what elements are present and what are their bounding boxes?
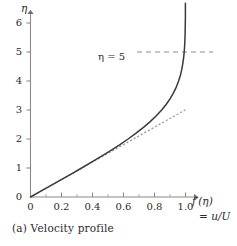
y-tick-label-2: 2 [8,134,22,144]
x-axis-ticks [62,193,186,198]
y-axis-label: η [21,3,27,14]
x-tick-label-5: 1.0 [173,202,199,212]
y-tick-label-1: 1 [8,163,22,173]
eta5-annotation-label: η = 5 [98,52,125,62]
y-tick-label-5: 5 [8,47,22,57]
x-tick-label-2: 0.4 [80,202,106,212]
x-tick-label-4: 0.8 [142,202,168,212]
x-tick-label-0: 0 [18,202,44,212]
y-tick-label-6: 6 [8,18,22,28]
velocity-profile-curve [31,3,186,197]
y-tick-label-4: 4 [8,76,22,86]
x-axis-label-line2: = u/U [199,211,230,222]
velocity-profile-figure: η f′(η) = u/U η = 5 0 1 2 3 4 5 6 0 0.2 … [0,0,237,246]
x-tick-label-1: 0.2 [49,202,75,212]
figure-caption: (a) Velocity profile [12,222,114,234]
y-axis-ticks [27,23,31,168]
y-tick-label-3: 3 [8,105,22,115]
x-tick-label-3: 0.6 [111,202,137,212]
y-tick-label-0: 0 [8,192,22,202]
